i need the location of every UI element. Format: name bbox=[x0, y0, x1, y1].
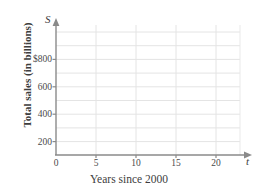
grid-lines-vertical bbox=[96, 25, 240, 155]
y-tick-label: 400 bbox=[24, 109, 52, 119]
x-tick-label: 20 bbox=[201, 158, 231, 168]
x-axis-title: Years since 2000 bbox=[0, 173, 258, 185]
x-tick-label: 15 bbox=[161, 158, 191, 168]
y-tick-label: 600 bbox=[24, 82, 52, 92]
y-tick-label: $800 bbox=[24, 54, 52, 64]
x-tick-label: 5 bbox=[81, 158, 111, 168]
x-tick-label: 0 bbox=[41, 158, 71, 168]
x-axis-variable-label: t bbox=[246, 155, 249, 167]
y-tick-label: 200 bbox=[24, 137, 52, 147]
y-axis-variable-label: S bbox=[45, 13, 51, 25]
chart-container: S t 200 400 600 $800 0 5 10 15 20 Total … bbox=[0, 0, 258, 192]
x-tick-label: 10 bbox=[121, 158, 151, 168]
grid-lines-horizontal bbox=[56, 32, 240, 142]
